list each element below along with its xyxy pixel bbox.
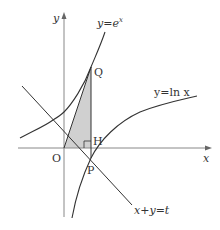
exp-curve-label-text: y=e xyxy=(96,17,119,30)
x-axis-arrow-icon xyxy=(205,146,212,151)
point-q-label: Q xyxy=(94,66,103,79)
y-axis-arrow-icon xyxy=(62,12,67,19)
line-x-plus-y-equals-t xyxy=(22,86,132,205)
point-h-label: H xyxy=(93,135,103,148)
ln-curve-label: y=ln x xyxy=(153,86,191,99)
diagram: y x y=ex y=ln x x+y=t O P Q H xyxy=(0,0,220,230)
exp-curve-label: y=ex xyxy=(96,16,123,30)
line-label: x+y=t xyxy=(134,204,170,217)
y-axis-label: y xyxy=(52,12,60,25)
exp-curve-label-superscript: x xyxy=(119,16,123,24)
x-axis-label: x xyxy=(203,152,210,165)
point-p-label: P xyxy=(87,164,95,177)
curve-exp xyxy=(20,32,105,138)
point-origin-label: O xyxy=(52,152,61,165)
